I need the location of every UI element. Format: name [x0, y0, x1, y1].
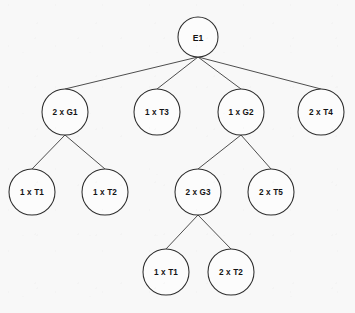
node-label-t1_left: 1 x T1 — [20, 188, 44, 197]
node-label-g3: 2 x G3 — [185, 188, 211, 197]
tree-edge-e1-to-t4 — [198, 57, 321, 89]
node-label-t5: 2 x T5 — [259, 188, 283, 197]
tree-canvas: E12 x G11 x T31 x G22 x T41 x T11 x T22 … — [0, 0, 355, 313]
tree-node-t2_bottom[interactable]: 2 x T2 — [208, 249, 254, 295]
tree-node-t5[interactable]: 2 x T5 — [248, 169, 294, 215]
tree-node-t1_bottom[interactable]: 1 x T1 — [143, 249, 189, 295]
node-label-t2_left: 1 x T2 — [93, 188, 117, 197]
tree-node-g3[interactable]: 2 x G3 — [175, 169, 221, 215]
tree-edge-g2-to-g3 — [198, 135, 241, 169]
tree-node-g2[interactable]: 1 x G2 — [218, 89, 264, 135]
tree-edge-g1-to-t1_left — [32, 135, 65, 169]
node-layer: E12 x G11 x T31 x G22 x T41 x T11 x T22 … — [9, 17, 344, 295]
tree-node-e1[interactable]: E1 — [178, 17, 218, 57]
node-label-t3: 1 x T3 — [145, 108, 169, 117]
product-structure-tree-diagram: E12 x G11 x T31 x G22 x T41 x T11 x T22 … — [0, 0, 355, 313]
node-label-t1_bottom: 1 x T1 — [154, 268, 178, 277]
tree-node-t1_left[interactable]: 1 x T1 — [9, 169, 55, 215]
tree-edge-g2-to-t5 — [241, 135, 271, 169]
node-label-t2_bottom: 2 x T2 — [219, 268, 243, 277]
tree-edge-e1-to-g2 — [198, 57, 241, 89]
edge-layer — [32, 57, 320, 249]
node-label-e1: E1 — [193, 33, 204, 43]
node-label-t4: 2 x T4 — [309, 108, 333, 117]
tree-node-g1[interactable]: 2 x G1 — [42, 89, 88, 135]
tree-edge-g3-to-t1_bottom — [166, 215, 198, 249]
tree-node-t4[interactable]: 2 x T4 — [298, 89, 344, 135]
node-label-g2: 1 x G2 — [228, 108, 254, 117]
node-label-g1: 2 x G1 — [52, 108, 78, 117]
tree-edge-g3-to-t2_bottom — [198, 215, 231, 249]
tree-node-t2_left[interactable]: 1 x T2 — [82, 169, 128, 215]
tree-node-t3[interactable]: 1 x T3 — [134, 89, 180, 135]
tree-edge-g1-to-t2_left — [65, 135, 105, 169]
